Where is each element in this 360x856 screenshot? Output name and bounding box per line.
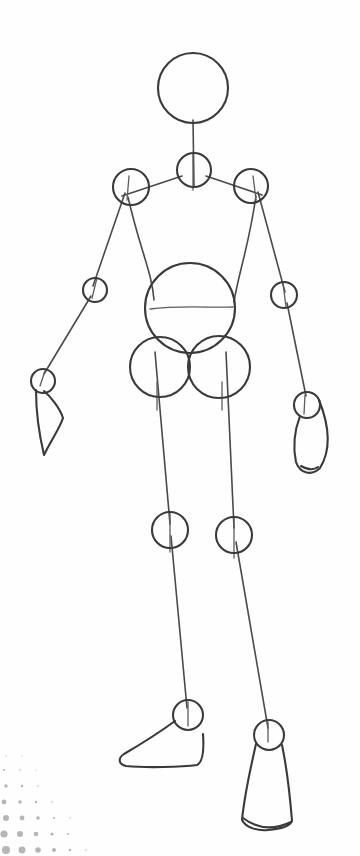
thigh-left-path bbox=[155, 352, 170, 524]
shoulder-left-circle bbox=[113, 169, 149, 205]
wrist-left-circle bbox=[31, 369, 55, 393]
hand-right-crease-path bbox=[301, 466, 318, 469]
foot-left-path bbox=[120, 721, 204, 767]
upperarm-right-path bbox=[258, 192, 285, 292]
hand-left-path bbox=[36, 390, 63, 455]
torso-side-left-path bbox=[128, 197, 154, 300]
head-circle bbox=[158, 53, 228, 123]
clavicle-left-path bbox=[122, 176, 182, 196]
wrist-tick-left-path bbox=[40, 371, 45, 386]
wrist-tick-right-path bbox=[304, 395, 305, 414]
elbow-tick-right-path bbox=[283, 283, 286, 307]
torso-side-right-path bbox=[234, 196, 256, 302]
joint-circles-group bbox=[31, 53, 320, 750]
thigh-right-path bbox=[226, 352, 234, 528]
shoulder-right-circle bbox=[234, 169, 268, 203]
mannequin-figure-drawing bbox=[0, 0, 360, 856]
forearm-left-path bbox=[44, 296, 91, 374]
wrist-right-circle bbox=[294, 392, 320, 418]
hand-right-path bbox=[294, 400, 327, 473]
shoulder-tick-right-path bbox=[253, 176, 256, 200]
shin-left-path bbox=[171, 536, 187, 708]
hip-right-circle bbox=[188, 336, 250, 398]
upperarm-left-path bbox=[93, 193, 125, 286]
foot-right-crease-path bbox=[243, 818, 291, 827]
foot-right-path bbox=[242, 744, 292, 830]
bone-lines-group bbox=[40, 120, 306, 742]
forearm-right-path bbox=[287, 303, 306, 396]
hip-left-circle bbox=[130, 337, 190, 397]
extremity-shapes-group bbox=[36, 390, 328, 830]
drawing-canvas bbox=[0, 0, 360, 856]
shin-right-path bbox=[236, 542, 268, 728]
chest-line-path bbox=[150, 307, 233, 309]
ankle-right-circle bbox=[254, 720, 284, 750]
